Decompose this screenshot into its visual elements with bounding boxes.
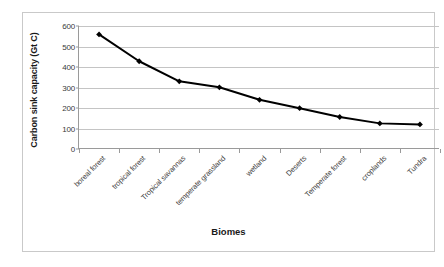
x-category-label: Tundra xyxy=(406,154,429,177)
data-point-marker xyxy=(297,105,303,111)
y-tick-label: 500 xyxy=(62,42,75,51)
plot-inner: 0100200300400500600 xyxy=(78,26,439,149)
x-category-label: tropical forest xyxy=(110,154,147,191)
y-tick-label: 400 xyxy=(62,63,75,72)
y-tick-label: 600 xyxy=(62,22,75,31)
data-point-marker xyxy=(377,120,383,126)
x-tick-mark xyxy=(320,149,321,153)
x-tick-mark xyxy=(400,149,401,153)
data-point-marker xyxy=(337,114,343,120)
x-tick-mark xyxy=(360,149,361,153)
x-tick-mark xyxy=(199,149,200,153)
data-point-marker xyxy=(216,84,222,90)
data-point-marker xyxy=(257,97,263,103)
y-axis-title: Carbon sink capacity (Gt C) xyxy=(29,15,45,165)
y-tick-label: 100 xyxy=(62,124,75,133)
y-tick-label: 300 xyxy=(62,83,75,92)
x-axis-title: Biomes xyxy=(23,226,434,237)
data-point-marker xyxy=(417,122,423,128)
x-tick-mark xyxy=(119,149,120,153)
x-tick-mark xyxy=(440,149,441,153)
chart-frame: Carbon sink capacity (Gt C) 010020030040… xyxy=(22,12,435,252)
series-line xyxy=(99,34,420,124)
x-category-label: wetland xyxy=(244,154,268,178)
x-tick-mark xyxy=(79,149,80,153)
x-category-label: Temperate forest xyxy=(303,154,348,199)
x-category-label: boreal forest xyxy=(72,154,107,189)
data-series xyxy=(79,26,440,149)
y-tick-label: 200 xyxy=(62,104,75,113)
y-tick-label: 0 xyxy=(71,145,75,154)
plot-area: 0100200300400500600 boreal foresttropica… xyxy=(78,26,439,149)
x-tick-mark xyxy=(239,149,240,153)
x-category-label: croplands xyxy=(359,154,388,183)
x-tick-mark xyxy=(159,149,160,153)
x-category-label: Deserts xyxy=(284,154,308,178)
x-tick-mark xyxy=(280,149,281,153)
